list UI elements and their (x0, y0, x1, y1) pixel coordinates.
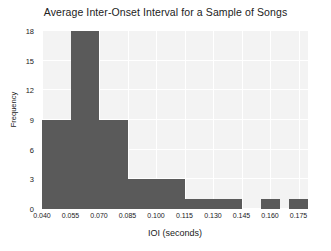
histogram-bar (42, 120, 71, 209)
histogram-figure: Average Inter-Onset Interval for a Sampl… (0, 0, 331, 251)
y-axis-tick: 9 (30, 116, 34, 125)
x-axis-tick: 0.175 (290, 212, 308, 219)
x-axis-tick: 0.130 (204, 212, 222, 219)
y-axis-tick-labels: 0369121518 (0, 31, 38, 209)
x-axis-tick: 0.070 (90, 212, 108, 219)
histogram-bar (156, 179, 185, 209)
histogram-bar (289, 199, 308, 209)
histogram-bar (99, 120, 128, 209)
plot-area (42, 31, 308, 209)
y-axis-title: Frequency (9, 75, 18, 145)
x-axis-tick: 0.115 (176, 212, 193, 219)
x-axis-tick-labels: 0.0400.0550.0700.0850.1000.1150.1300.145… (42, 212, 308, 226)
histogram-bar (261, 199, 280, 209)
histogram-bar (185, 199, 242, 209)
y-axis-tick: 15 (26, 56, 34, 65)
x-axis-title: IOI (seconds) (42, 228, 308, 238)
histogram-bar (128, 179, 157, 209)
histogram-bars (42, 31, 308, 209)
x-axis-tick: 0.085 (119, 212, 137, 219)
x-axis-tick: 0.145 (233, 212, 251, 219)
x-axis-tick: 0.055 (62, 212, 80, 219)
chart-title: Average Inter-Onset Interval for a Sampl… (0, 6, 331, 18)
histogram-bar (71, 31, 100, 209)
y-axis-tick: 12 (26, 86, 34, 95)
y-axis-tick: 18 (26, 27, 34, 36)
y-axis-tick: 3 (30, 175, 34, 184)
x-axis-tick: 0.100 (147, 212, 165, 219)
x-axis-tick: 0.160 (261, 212, 279, 219)
y-axis-tick: 6 (30, 145, 34, 154)
x-axis-tick: 0.040 (33, 212, 51, 219)
